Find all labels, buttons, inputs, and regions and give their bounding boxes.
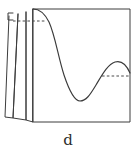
- plot-frame: [33, 9, 130, 122]
- figure-canvas: d: [0, 0, 136, 156]
- plane-middle-outline: [13, 12, 26, 120]
- plane-back-outline: [26, 9, 33, 122]
- plane-front-outline: [5, 14, 18, 118]
- figure-panel: d: [0, 0, 136, 156]
- s-shaped-curve: [33, 9, 130, 101]
- panel-label: d: [63, 131, 73, 149]
